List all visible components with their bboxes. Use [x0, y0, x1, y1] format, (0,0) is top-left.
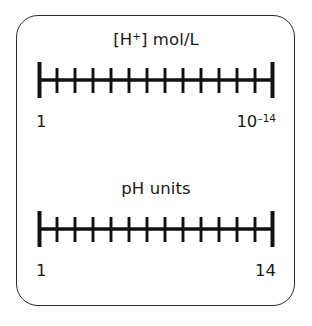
ph-start-label: 1 — [36, 261, 47, 280]
concentration-end-label-exponent: –14 — [257, 112, 276, 124]
concentration-end-label-base: 10 — [236, 112, 257, 131]
ph-end-label: 14 — [255, 261, 276, 280]
concentration-ruler — [30, 60, 282, 104]
ph-ruler — [30, 209, 282, 253]
ph-title-main: pH units — [121, 179, 191, 198]
ph-scale-title: pH units — [0, 179, 312, 198]
concentration-title-tail: ] mol/L — [141, 30, 199, 49]
concentration-title-superscript: + — [132, 30, 141, 42]
concentration-title-main: [H — [113, 30, 132, 49]
concentration-start-label: 1 — [36, 112, 47, 131]
concentration-scale-labels: 1 10–14 — [36, 112, 276, 131]
ph-scale-labels: 1 14 — [36, 261, 276, 280]
ph-scale-figure: [H+] mol/L — [0, 0, 312, 326]
concentration-scale-title: [H+] mol/L — [0, 30, 312, 49]
concentration-end-label: 10–14 — [236, 112, 276, 131]
ph-end-label-base: 14 — [255, 261, 276, 280]
